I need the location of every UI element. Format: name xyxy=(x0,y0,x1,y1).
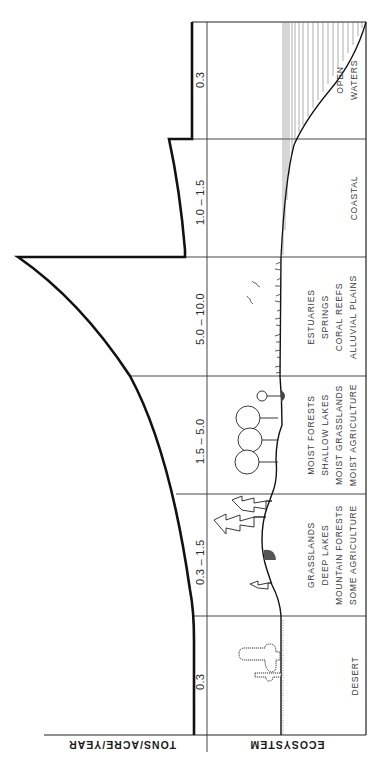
svg-text:MOIST FORESTS: MOIST FORESTS xyxy=(306,395,316,475)
deep-lake xyxy=(264,550,276,560)
zone-value-estuaries: 5.0 – 10.0 xyxy=(194,293,206,345)
zone-value-moist: 1.5 – 5.0 xyxy=(194,418,206,464)
svg-text:CORAL REEFS: CORAL REEFS xyxy=(334,283,344,351)
svg-text:ESTUARIES: ESTUARIES xyxy=(306,289,316,344)
zone-value-coastal: 1.0 – 1.5 xyxy=(194,179,206,225)
shallow-lake xyxy=(281,390,285,402)
productivity-diagram: 0.3 0.3 – 1.5 1.5 – 5.0 5.0 – 10.0 1.0 –… xyxy=(0,0,379,757)
svg-text:DEEP LAKES: DEEP LAKES xyxy=(320,525,330,586)
svg-text:GRASSLANDS: GRASSLANDS xyxy=(306,522,316,588)
productivity-axis-label: TONS/ACRE/YEAR xyxy=(68,739,176,751)
svg-text:SOME AGRICULTURE: SOME AGRICULTURE xyxy=(348,505,358,605)
svg-text:WATERS: WATERS xyxy=(349,60,359,100)
svg-text:SPRINGS: SPRINGS xyxy=(320,295,330,339)
svg-text:ALLUVIAL PLAINS: ALLUVIAL PLAINS xyxy=(348,275,358,359)
ecosystem-estuaries: ESTUARIES SPRINGS CORAL REEFS ALLUVIAL P… xyxy=(306,275,358,359)
conifer-trees xyxy=(214,496,272,589)
bird-icon xyxy=(252,281,260,287)
ecosystem-grasslands: GRASSLANDS DEEP LAKES MOUNTAIN FORESTS S… xyxy=(306,505,358,605)
ecosystem-moist: MOIST FORESTS SHALLOW LAKES MOIST GRASSL… xyxy=(306,384,358,487)
deciduous-trees xyxy=(235,391,281,474)
zone-value-desert: 0.3 xyxy=(194,674,206,690)
svg-text:MOIST GRASSLANDS: MOIST GRASSLANDS xyxy=(334,385,344,485)
ecosystem-axis-label: ECOSYSTEM xyxy=(250,739,325,751)
cactus-icon xyxy=(239,644,281,681)
zone-value-open-waters: 0.3 xyxy=(194,72,206,88)
svg-text:OPEN: OPEN xyxy=(335,66,345,93)
bird-icon xyxy=(247,296,253,304)
svg-text:COASTAL: COASTAL xyxy=(349,176,359,221)
ecosystem-coastal: COASTAL xyxy=(349,176,359,221)
svg-text:SHALLOW LAKES: SHALLOW LAKES xyxy=(320,394,330,476)
productivity-curve xyxy=(18,22,194,735)
svg-text:MOIST AGRICULTURE: MOIST AGRICULTURE xyxy=(348,384,358,487)
seafloor-curve xyxy=(281,22,366,257)
ecosystem-desert: DESERT xyxy=(350,656,360,695)
svg-text:DESERT: DESERT xyxy=(350,656,360,695)
zone-value-grasslands: 0.3 – 1.5 xyxy=(194,539,206,585)
svg-text:MOUNTAIN FORESTS: MOUNTAIN FORESTS xyxy=(334,505,344,605)
